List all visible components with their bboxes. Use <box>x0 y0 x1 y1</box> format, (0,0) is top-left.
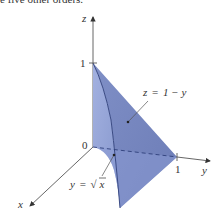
cyl-eq-sign: = <box>80 178 86 190</box>
sqrt-symbol: √ <box>91 178 98 190</box>
cylinder-equation-label: y = √ x <box>69 178 104 190</box>
x-axis <box>30 147 93 206</box>
base-surface-face <box>93 147 177 208</box>
cyl-eq-var: y <box>69 178 75 190</box>
cylinder-leader-line <box>102 155 114 176</box>
plane-eq-var: z <box>142 86 148 98</box>
solid-region-figure: z 1 0 1 y x z = 1 − y y = √ x <box>0 0 221 222</box>
plane-eq-sign: = <box>152 86 158 98</box>
origin-label: 0 <box>82 139 88 151</box>
diagram-frame: e five other orders. <box>0 0 221 222</box>
x-axis-label: x <box>17 198 23 210</box>
y-tick-label: 1 <box>175 163 181 175</box>
plane-equation-label: z = 1 − y <box>142 86 186 98</box>
z-axis-label: z <box>81 12 87 24</box>
y-axis-label: y <box>201 164 207 176</box>
cyl-eq-radicand: x <box>98 178 104 190</box>
plane-leader-dot <box>127 121 130 124</box>
y-axis <box>177 157 210 161</box>
cylinder-leader-dot <box>113 154 116 157</box>
z-tick-label: 1 <box>80 57 86 69</box>
plane-eq-rhs: 1 − y <box>163 86 186 98</box>
